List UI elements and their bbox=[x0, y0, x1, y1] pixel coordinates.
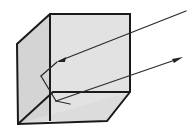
cube-solid bbox=[17, 14, 130, 124]
reflected-ray-arrowhead bbox=[172, 57, 183, 63]
cube-left-face bbox=[17, 14, 50, 124]
retroreflector-figure bbox=[0, 0, 192, 134]
corner-vertex bbox=[52, 91, 54, 93]
figure-canvas bbox=[0, 0, 192, 134]
